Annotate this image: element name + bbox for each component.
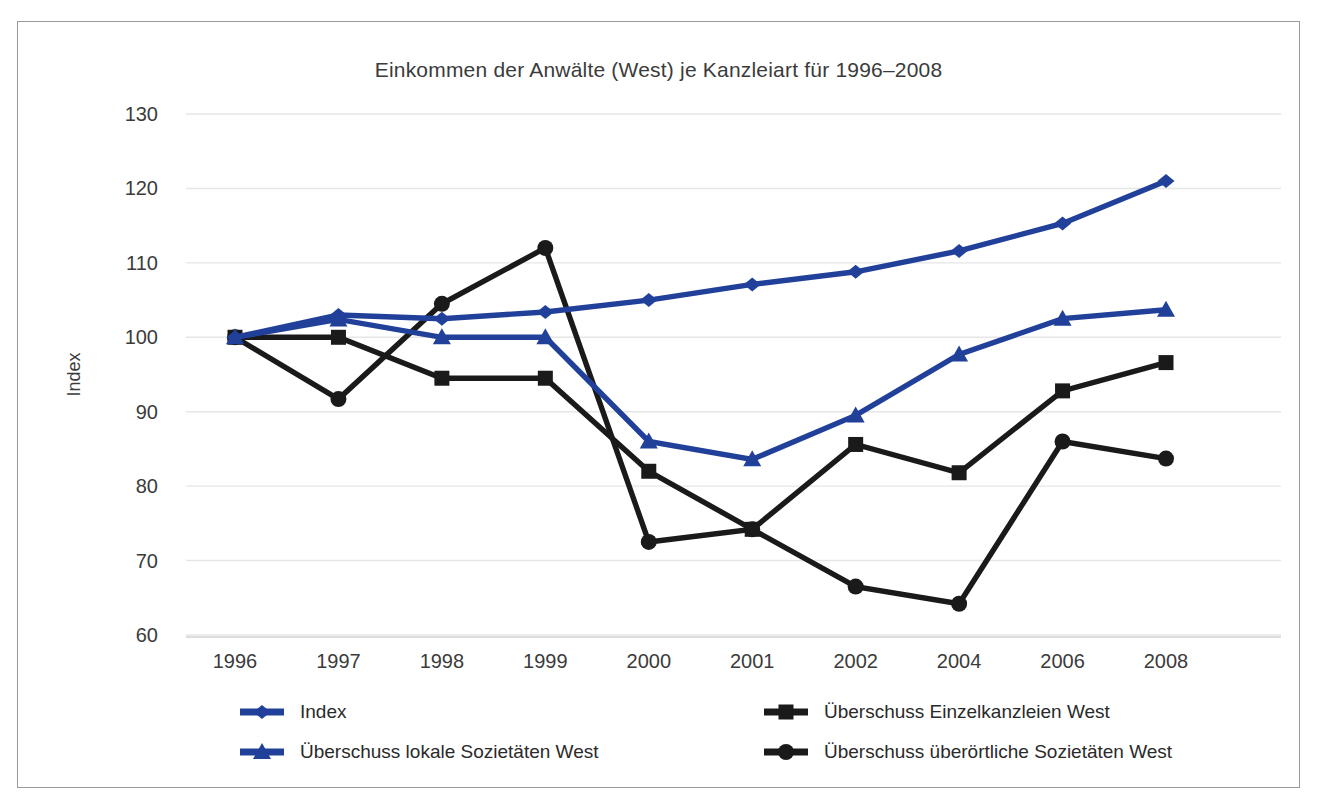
square-marker-icon: [952, 465, 967, 480]
square-marker-icon: [434, 371, 449, 386]
legend-item[interactable]: Index: [240, 701, 347, 722]
legend-label: Überschuss überörtliche Sozietäten West: [824, 741, 1173, 762]
square-marker-icon: [331, 330, 346, 345]
x-tick-label: 1999: [523, 650, 568, 672]
x-tick-label: 2004: [937, 650, 982, 672]
x-tick-label: 2001: [730, 650, 775, 672]
series-0: [227, 174, 1175, 344]
diamond-marker-icon: [744, 277, 761, 291]
y-tick-label: 70: [136, 550, 158, 572]
chart-canvas: 60708090100110120130Index199619971998199…: [18, 22, 1299, 787]
x-tick-labels: 1996199719981999200020012002200420062008: [213, 650, 1189, 672]
circle-marker-icon: [434, 296, 450, 312]
chart-legend: IndexÜberschuss Einzelkanzleien WestÜber…: [240, 701, 1173, 762]
circle-marker-icon: [778, 744, 794, 760]
circle-marker-icon: [537, 240, 553, 256]
chart-frame: Einkommen der Anwälte (West) je Kanzleia…: [17, 21, 1300, 788]
y-axis-title: Index: [64, 352, 84, 396]
legend-item[interactable]: Überschuss lokale Sozietäten West: [240, 741, 599, 762]
circle-marker-icon: [1158, 451, 1174, 467]
x-tick-label: 1998: [420, 650, 465, 672]
diamond-marker-icon: [537, 305, 554, 319]
x-tick-label: 1996: [213, 650, 258, 672]
diamond-marker-icon: [433, 312, 450, 326]
circle-marker-icon: [951, 596, 967, 612]
series-line: [235, 310, 1166, 460]
y-tick-label: 60: [136, 624, 158, 646]
y-tick-label: 90: [136, 401, 158, 423]
series-3: [227, 240, 1174, 612]
x-tick-label: 2000: [627, 650, 672, 672]
y-tick-label: 130: [125, 103, 158, 125]
diamond-marker-icon: [847, 265, 864, 279]
diamond-marker-icon: [640, 293, 657, 307]
series-line: [235, 248, 1166, 604]
diamond-marker-icon: [254, 705, 271, 719]
x-tick-label: 2002: [833, 650, 878, 672]
y-tick-label: 120: [125, 177, 158, 199]
square-marker-icon: [1055, 383, 1070, 398]
series-line: [235, 181, 1166, 337]
series-2: [228, 330, 1174, 537]
square-marker-icon: [641, 464, 656, 479]
legend-item[interactable]: Überschuss überörtliche Sozietäten West: [764, 741, 1173, 762]
circle-marker-icon: [330, 391, 346, 407]
y-tick-label: 100: [125, 326, 158, 348]
square-marker-icon: [538, 371, 553, 386]
circle-marker-icon: [641, 534, 657, 550]
y-tick-label: 80: [136, 475, 158, 497]
x-tick-label: 1997: [316, 650, 361, 672]
square-marker-icon: [779, 705, 794, 720]
x-tick-label: 2006: [1040, 650, 1085, 672]
legend-label: Überschuss lokale Sozietäten West: [300, 741, 599, 762]
x-tick-label: 2008: [1144, 650, 1189, 672]
square-marker-icon: [848, 437, 863, 452]
series-1: [226, 301, 1175, 467]
legend-item[interactable]: Überschuss Einzelkanzleien West: [764, 701, 1111, 722]
circle-marker-icon: [848, 579, 864, 595]
legend-label: Überschuss Einzelkanzleien West: [824, 701, 1111, 722]
square-marker-icon: [1159, 355, 1174, 370]
y-tick-label: 110: [126, 252, 158, 274]
diamond-marker-icon: [951, 244, 968, 258]
legend-label: Index: [300, 701, 347, 722]
circle-marker-icon: [744, 521, 760, 537]
circle-marker-icon: [1055, 433, 1071, 449]
